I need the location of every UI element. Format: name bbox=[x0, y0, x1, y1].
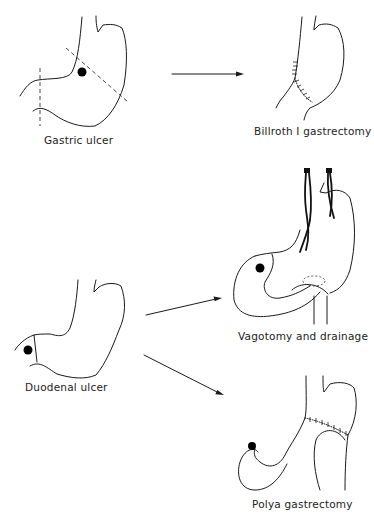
billroth-label: Billroth I gastrectomy bbox=[254, 125, 371, 137]
ulcer-icon bbox=[248, 442, 256, 450]
billroth-stomach bbox=[276, 16, 344, 120]
arrow-duodenal-to-vagotomy bbox=[146, 297, 222, 315]
surgical-diagram: Gastric ulcer Billroth I gastrectomy Vag… bbox=[0, 0, 374, 523]
arrow-duodenal-to-polya bbox=[144, 355, 224, 395]
duodenal-ulcer-stomach bbox=[15, 280, 125, 378]
polya-label: Polya gastrectomy bbox=[252, 498, 353, 510]
arrow-gastric-to-billroth bbox=[172, 72, 244, 77]
vagotomy-stomach bbox=[234, 168, 355, 324]
gastric-ulcer-stomach bbox=[20, 16, 128, 126]
resection-line-proximal bbox=[66, 48, 128, 102]
ligature-left-icon bbox=[304, 168, 310, 173]
gastric-ulcer-label: Gastric ulcer bbox=[44, 134, 113, 146]
duodenal-ulcer-label: Duodenal ulcer bbox=[25, 381, 108, 393]
ulcer-icon bbox=[78, 68, 87, 77]
ulcer-icon bbox=[256, 264, 265, 273]
vagotomy-label: Vagotomy and drainage bbox=[238, 330, 368, 342]
ulcer-icon bbox=[24, 346, 33, 355]
polya-stomach bbox=[239, 376, 357, 490]
diagram-drawing bbox=[0, 0, 374, 523]
ligature-right-icon bbox=[326, 168, 332, 173]
